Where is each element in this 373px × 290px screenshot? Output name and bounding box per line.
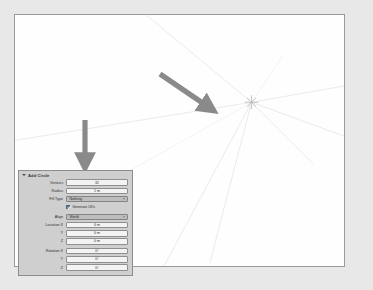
generate-uvs-row[interactable]: Generate UVs — [22, 204, 128, 211]
fill-type-dropdown[interactable]: Nothing — [66, 196, 128, 203]
panel-properties: Vertices 32 Radius 1 m Fill Type Nothing… — [19, 179, 132, 271]
row-location-x: Location X 0 m — [22, 221, 128, 228]
chevron-down-icon — [123, 199, 125, 200]
row-rotation-x: Rotation X 0° — [22, 247, 128, 254]
panel-header[interactable]: Add Circle — [19, 171, 132, 179]
add-circle-redo-panel[interactable]: Add Circle Vertices 32 Radius 1 m Fill T… — [18, 170, 133, 276]
label-rotation-z: Z — [22, 266, 66, 270]
label-align: Align — [22, 215, 66, 219]
generate-uvs-checkbox[interactable] — [66, 205, 70, 209]
rotation-z-input[interactable]: 0° — [66, 264, 128, 271]
label-vertices: Vertices — [22, 181, 66, 185]
location-z-input[interactable]: 0 m — [66, 238, 128, 245]
align-dropdown[interactable]: World — [66, 214, 128, 221]
label-location-z: Z — [22, 239, 66, 243]
row-rotation-z: Z 0° — [22, 264, 128, 271]
row-location-z: Z 0 m — [22, 238, 128, 245]
radius-input[interactable]: 1 m — [66, 188, 128, 195]
chevron-down-icon — [123, 216, 125, 217]
row-align: Align World — [22, 213, 128, 220]
rotation-x-input[interactable]: 0° — [66, 248, 128, 255]
row-radius: Radius 1 m — [22, 187, 128, 194]
row-rotation-y: Y 0° — [22, 256, 128, 263]
label-rotation-x: Rotation X — [22, 249, 66, 253]
row-vertices: Vertices 32 — [22, 179, 128, 186]
row-fill-type: Fill Type Nothing — [22, 195, 128, 202]
label-rotation-y: Y — [22, 257, 66, 261]
triangle-down-icon[interactable] — [22, 174, 26, 176]
label-location-x: Location X — [22, 223, 66, 227]
generate-uvs-label: Generate UVs — [72, 205, 95, 209]
row-location-y: Y 0 m — [22, 230, 128, 237]
label-fill-type: Fill Type — [22, 197, 66, 201]
vertices-input[interactable]: 32 — [66, 179, 128, 186]
label-location-y: Y — [22, 231, 66, 235]
label-radius: Radius — [22, 189, 66, 193]
location-x-input[interactable]: 0 m — [66, 222, 128, 229]
location-y-input[interactable]: 0 m — [66, 230, 128, 237]
application-window: Add Circle Vertices 32 Radius 1 m Fill T… — [0, 0, 373, 290]
rotation-y-input[interactable]: 0° — [66, 256, 128, 263]
panel-title: Add Circle — [28, 173, 49, 178]
